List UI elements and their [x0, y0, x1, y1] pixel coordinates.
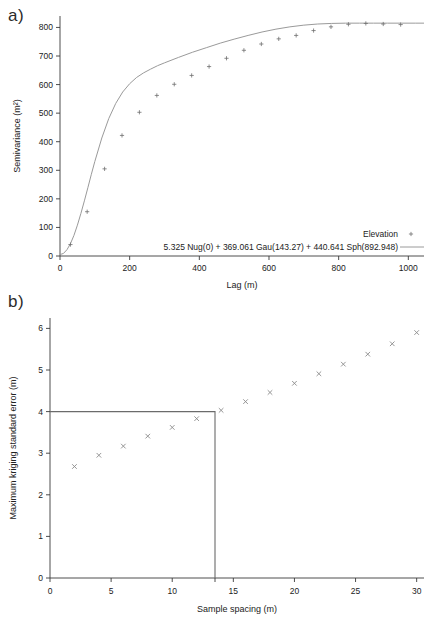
y-tick-label: 100: [39, 222, 53, 232]
panel-a-y-axis-title: Semivariance (m²): [12, 99, 22, 173]
panel-b-svg: 0123456051015202530Sample spacing (m)Max…: [0, 290, 428, 623]
panel-b-axes: [50, 318, 424, 578]
x-tick-label: 0: [48, 586, 53, 596]
panel-a-plot-area: 0100200300400500600700800020040060080010…: [12, 16, 424, 290]
x-tick-label: 600: [262, 263, 276, 273]
y-tick-label: 800: [39, 22, 53, 32]
x-tick-label: 20: [290, 586, 300, 596]
x-tick-label: 25: [351, 586, 361, 596]
y-tick-label: 200: [39, 194, 53, 204]
panel-b-kriging-error: b) 0123456051015202530Sample spacing (m)…: [0, 290, 428, 623]
y-tick-label: 0: [38, 573, 43, 583]
x-tick-label: 1000: [399, 263, 418, 273]
y-tick-label: 3: [38, 448, 43, 458]
x-tick-label: 30: [412, 586, 422, 596]
y-tick-label: 6: [38, 323, 43, 333]
panel-b-label: b): [8, 292, 24, 312]
kriging-error-data-points: [72, 330, 419, 469]
x-tick-label: 0: [58, 263, 63, 273]
panel-a-axes: [60, 16, 424, 256]
panel-a-x-axis-title: Lag (m): [226, 280, 257, 290]
elevation-data-points: [68, 21, 402, 246]
figure-container: a) 0100200300400500600700800020040060080…: [0, 0, 428, 623]
x-tick-label: 10: [167, 586, 177, 596]
panel-b-y-axis-title: Maximum kriging standard error (m): [8, 376, 18, 519]
x-tick-label: 800: [332, 263, 346, 273]
x-tick-label: 400: [192, 263, 206, 273]
y-tick-label: 700: [39, 51, 53, 61]
y-tick-label: 5: [38, 365, 43, 375]
x-tick-label: 200: [123, 263, 137, 273]
y-tick-label: 400: [39, 137, 53, 147]
panel-a-label: a): [8, 6, 24, 26]
panel-a-variogram: a) 0100200300400500600700800020040060080…: [0, 0, 428, 296]
x-tick-label: 15: [229, 586, 239, 596]
y-tick-label: 2: [38, 490, 43, 500]
panel-b-plot-area: 0123456051015202530Sample spacing (m)Max…: [8, 318, 424, 614]
x-tick-label: 5: [109, 586, 114, 596]
y-tick-label: 300: [39, 165, 53, 175]
y-tick-label: 1: [38, 531, 43, 541]
panel-a-svg: 0100200300400500600700800020040060080010…: [0, 0, 428, 296]
y-tick-label: 500: [39, 108, 53, 118]
y-tick-label: 600: [39, 80, 53, 90]
panel-a-legend: Elevation5.325 Nug(0) + 369.061 Gau(143.…: [164, 229, 424, 252]
threshold-reference-box: [50, 412, 215, 578]
legend-label-elevation: Elevation: [363, 229, 398, 239]
y-tick-label: 4: [38, 407, 43, 417]
panel-b-x-axis-title: Sample spacing (m): [197, 604, 277, 614]
fitted-model-curve: [60, 23, 424, 254]
y-tick-label: 0: [48, 251, 53, 261]
legend-label-model-equation: 5.325 Nug(0) + 369.061 Gau(143.27) + 440…: [164, 242, 399, 252]
